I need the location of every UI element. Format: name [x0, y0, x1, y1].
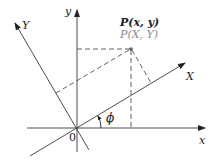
- projection-to-rotated-y-axis: [56, 50, 129, 93]
- projection-to-rotated-x-axis: [132, 50, 151, 83]
- rotation-of-axes-diagram: y Y X x 0 ϕ P(x, y) P(X, Y): [0, 0, 213, 165]
- angle-arc: [98, 116, 101, 128]
- angle-label: ϕ: [106, 111, 114, 125]
- rotated-y-axis-label: Y: [22, 19, 31, 32]
- point-label-XY: P(X, Y): [119, 28, 158, 41]
- origin-label: 0: [69, 131, 76, 144]
- y-axis-label: y: [64, 5, 72, 18]
- rotated-x-axis-label: X: [185, 70, 195, 83]
- x-axis-label: x: [199, 134, 206, 147]
- rotated-x-axis: [30, 63, 185, 156]
- point-p: [129, 47, 133, 51]
- rotated-y-axis: [15, 23, 89, 150]
